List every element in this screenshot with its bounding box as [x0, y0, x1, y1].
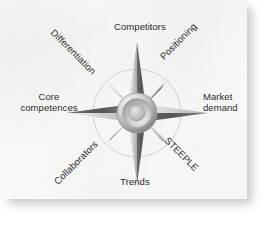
- figure-card: Competitors Positioning Market demand ST…: [0, 0, 247, 199]
- figure-root: Competitors Positioning Market demand ST…: [0, 0, 275, 227]
- compass-label-competitors: Competitors: [105, 22, 175, 33]
- core-competences-line-1: Core: [39, 91, 60, 102]
- compass-label-core-competences: Core competences: [16, 92, 82, 113]
- core-competences-line-2: competences: [20, 102, 77, 113]
- compass-label-trends: Trends: [100, 177, 170, 188]
- compass-hub: [117, 93, 157, 133]
- compass-label-market-demand: Market demand: [203, 92, 247, 113]
- hub-inner-disc: [129, 105, 145, 121]
- market-demand-line-1: Market: [203, 91, 232, 102]
- market-demand-line-2: demand: [203, 102, 238, 113]
